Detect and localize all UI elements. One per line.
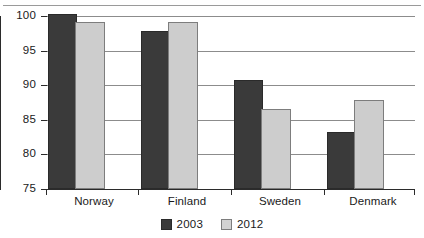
x-axis-label-sweden: Sweden <box>234 195 326 207</box>
legend-swatch-2012-icon <box>221 219 232 230</box>
x-axis-label-finland: Finland <box>141 195 233 207</box>
y-tick-label-85: 85 <box>0 113 36 125</box>
y-tick-label-100: 100 <box>0 9 36 21</box>
legend-swatch-2003-icon <box>161 219 172 230</box>
bar-norway-2003 <box>48 14 77 189</box>
bar-norway-2012 <box>75 22 105 189</box>
bar-finland-2012 <box>168 22 198 189</box>
x-axis-label-denmark: Denmark <box>327 195 419 207</box>
y-tick-label-80: 80 <box>0 147 36 159</box>
x-tick-mark-start <box>46 189 47 195</box>
page-top-rule <box>3 5 421 6</box>
legend-label-2003: 2003 <box>177 218 203 230</box>
bar-finland-2003 <box>141 31 170 189</box>
bar-sweden-2012 <box>261 109 291 189</box>
plot-area <box>46 16 415 189</box>
bar-chart-figure: 100 95 90 85 80 75 Norway Finland Sweden… <box>0 0 424 238</box>
legend-label-2012: 2012 <box>237 218 263 230</box>
bar-denmark-2012 <box>354 100 384 189</box>
x-axis-label-norway: Norway <box>48 195 140 207</box>
bar-sweden-2003 <box>234 80 263 189</box>
y-tick-mark-90 <box>41 85 47 86</box>
y-tick-mark-95 <box>41 51 47 52</box>
bar-denmark-2003 <box>327 132 356 189</box>
legend-item-2012: 2012 <box>221 218 263 230</box>
y-tick-label-75: 75 <box>0 182 36 194</box>
y-tick-mark-80 <box>41 154 47 155</box>
legend-item-2003: 2003 <box>161 218 203 230</box>
y-tick-mark-85 <box>41 120 47 121</box>
gridline-100 <box>46 16 415 17</box>
y-tick-label-95: 95 <box>0 44 36 56</box>
chart-legend: 2003 2012 <box>0 218 424 230</box>
y-tick-mark-100 <box>41 16 47 17</box>
y-tick-label-90: 90 <box>0 78 36 90</box>
y-axis-line <box>0 16 1 190</box>
